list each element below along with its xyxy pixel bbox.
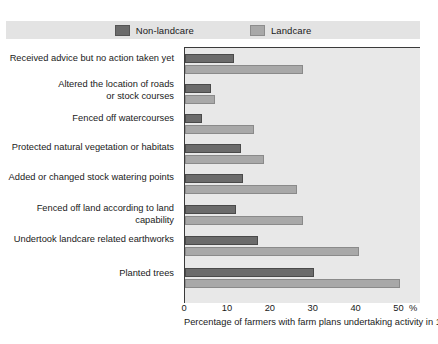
legend-items: Non-landcare Landcare [6,21,420,39]
x-tick-label: 40 [350,303,360,313]
bar-landcare[interactable] [185,95,215,104]
bar-non-landcare[interactable] [185,205,236,214]
bar-landcare[interactable] [185,279,400,288]
category-label: Undertook landcare related earthworks [14,234,174,246]
category-label: Fenced off land according to land capabi… [0,203,174,226]
legend-item-non-landcare: Non-landcare [115,25,194,36]
bar-landcare[interactable] [185,185,297,194]
category-label: Protected natural vegetation or habitats [12,142,174,154]
category-label: Fenced off watercourses [72,113,174,125]
value-axis: % 01020304050 [184,303,420,317]
category-label: Added or changed stock watering points [9,172,174,184]
x-tick-label: 50 [393,303,403,313]
legend-label-non-landcare: Non-landcare [136,25,194,36]
bar-non-landcare[interactable] [185,84,211,93]
bar-groups[interactable] [185,48,420,303]
x-tick-label: 0 [181,303,186,313]
bar-non-landcare[interactable] [185,144,241,153]
bar-landcare[interactable] [185,125,254,134]
bar-non-landcare[interactable] [185,268,314,277]
bar-landcare[interactable] [185,216,303,225]
axis-unit-label: % [409,303,417,313]
category-label: Received advice but no action taken yet [10,53,174,65]
x-tick-label: 30 [308,303,318,313]
bar-non-landcare[interactable] [185,174,243,183]
bar-chart: Non-landcare Landcare Received advice bu… [0,0,438,344]
category-label: Altered the location of roads or stock c… [58,79,174,102]
legend-swatch-icon-landcare [250,25,265,36]
plot-area [184,47,420,303]
legend-item-landcare: Landcare [250,25,311,36]
bar-non-landcare[interactable] [185,236,258,245]
bar-landcare[interactable] [185,65,303,74]
axis-caption: Percentage of farmers with farm plans un… [184,317,434,327]
x-tick-label: 10 [222,303,232,313]
bar-non-landcare[interactable] [185,114,202,123]
legend-swatch-icon-non-landcare [115,25,130,36]
chart-legend: Non-landcare Landcare [6,21,420,39]
bar-non-landcare[interactable] [185,54,234,63]
bar-landcare[interactable] [185,247,359,256]
x-tick-label: 20 [265,303,275,313]
category-axis-labels: Received advice but no action taken yet … [0,47,180,303]
category-label: Planted trees [119,268,174,280]
bar-landcare[interactable] [185,155,264,164]
legend-label-landcare: Landcare [271,25,311,36]
